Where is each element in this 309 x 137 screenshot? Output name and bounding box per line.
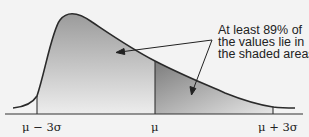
tick-label-mu-minus-3sigma: μ − 3σ <box>22 120 62 134</box>
chebyshev-figure: At least 89% of the values lie in the sh… <box>0 0 309 137</box>
annotation-text: At least 89% of the values lie in the sh… <box>218 24 309 60</box>
shaded-area-left <box>37 14 155 114</box>
tick-label-mu-plus-3sigma: μ + 3σ <box>258 120 298 134</box>
annotation-line-3: the shaded areas <box>218 48 309 60</box>
distribution-plot <box>0 0 309 137</box>
tick-label-mu: μ <box>151 120 158 134</box>
